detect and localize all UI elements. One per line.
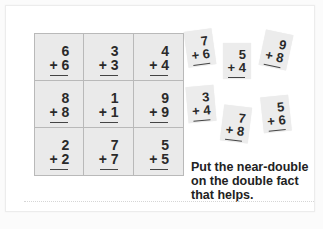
addend-bottom: + 3: [93, 58, 119, 72]
instruction-text: Put the near-double on the double fact t…: [191, 160, 316, 202]
sum-line: [100, 169, 118, 170]
faint-caption-line: [24, 201, 314, 204]
sum-line: [193, 119, 210, 121]
addend-bottom: + 4: [224, 61, 246, 74]
sum-line: [150, 75, 168, 76]
addend-bottom: + 6: [263, 113, 286, 128]
near-double-card[interactable]: 7 + 6: [184, 28, 217, 68]
sum-line: [100, 122, 118, 123]
addend-top: 7: [93, 138, 119, 152]
sum-line: [193, 63, 210, 66]
addend-bottom: + 6: [187, 47, 211, 63]
worksheet-panel: 6 + 6 3 + 3 4 + 4 8 + 8: [5, 5, 315, 212]
sum-line: [150, 169, 168, 170]
near-double-card[interactable]: 3 + 4: [185, 85, 216, 123]
near-double-fact: 3 + 4: [187, 90, 212, 122]
addend-bottom: + 4: [188, 103, 211, 118]
addend-top: 1: [93, 91, 119, 105]
sum-line: [150, 122, 168, 123]
grid-cell[interactable]: 4 + 4: [134, 34, 183, 81]
double-fact: 6 + 6: [43, 44, 69, 76]
addend-bottom: + 8: [222, 122, 245, 138]
double-fact: 5 + 5: [143, 138, 169, 170]
double-fact: 1 + 1: [93, 91, 119, 123]
double-fact: 9 + 9: [143, 91, 169, 123]
addend-bottom: + 1: [93, 105, 119, 119]
grid-cell[interactable]: 7 + 7: [84, 128, 133, 175]
double-fact: 8 + 8: [43, 91, 69, 123]
grid-cell[interactable]: 3 + 3: [84, 34, 133, 81]
addend-top: 4: [143, 44, 169, 58]
addend-bottom: + 8: [43, 105, 69, 119]
double-fact: 2 + 2: [43, 138, 69, 170]
sum-line: [225, 139, 242, 142]
sum-line: [50, 122, 68, 123]
near-double-fact: 5 + 6: [262, 100, 287, 132]
addend-bottom: + 8: [261, 47, 285, 64]
near-double-card[interactable]: 9 + 8: [259, 29, 294, 70]
addend-bottom: + 9: [143, 105, 169, 119]
grid-cell[interactable]: 6 + 6: [35, 34, 84, 81]
grid-cell[interactable]: 1 + 1: [84, 81, 133, 128]
near-double-fact: 7 + 6: [185, 34, 211, 67]
sum-line: [50, 75, 68, 76]
addend-bottom: + 6: [43, 58, 69, 72]
grid-cell[interactable]: 8 + 8: [35, 81, 84, 128]
addend-bottom: + 7: [93, 152, 119, 166]
double-fact: 3 + 3: [93, 44, 119, 76]
sum-line: [100, 75, 118, 76]
grid-cell[interactable]: 5 + 5: [134, 128, 183, 175]
addend-top: 2: [43, 138, 69, 152]
near-double-fact: 5 + 4: [224, 48, 246, 78]
near-double-fact: 9 + 8: [260, 35, 288, 69]
double-fact: 7 + 7: [93, 138, 119, 170]
sum-line: [228, 77, 245, 78]
addend-top: 6: [43, 44, 69, 58]
near-double-card[interactable]: 5 + 4: [223, 43, 251, 79]
addend-bottom: + 2: [43, 152, 69, 166]
addend-bottom: + 4: [143, 58, 169, 72]
addend-top: 3: [93, 44, 119, 58]
double-facts-grid: 6 + 6 3 + 3 4 + 4 8 + 8: [34, 33, 184, 176]
addend-top: 9: [143, 91, 169, 105]
addend-top: 5: [143, 138, 169, 152]
double-fact: 4 + 4: [143, 44, 169, 76]
sum-line: [50, 169, 68, 170]
near-double-fact: 7 + 8: [221, 110, 246, 142]
addend-top: 8: [43, 91, 69, 105]
grid-cell[interactable]: 2 + 2: [35, 128, 84, 175]
near-double-card[interactable]: 7 + 8: [220, 104, 252, 143]
addend-bottom: + 5: [143, 152, 169, 166]
sum-line: [269, 129, 286, 132]
grid-cell[interactable]: 9 + 9: [134, 81, 183, 128]
near-double-card[interactable]: 5 + 6: [260, 95, 292, 134]
